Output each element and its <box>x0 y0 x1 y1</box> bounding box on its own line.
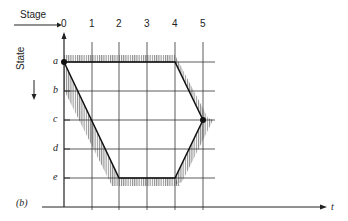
stage-5: 5 <box>200 19 206 29</box>
state-d: d <box>53 143 58 153</box>
start-point <box>61 59 67 65</box>
hatched-region <box>64 55 213 186</box>
stage-0: 0 <box>61 19 67 29</box>
state-label: State <box>16 47 26 70</box>
stage-2: 2 <box>116 19 122 29</box>
state-a: a <box>53 56 58 66</box>
state-b: b <box>53 85 58 95</box>
panel-label: (b) <box>16 198 28 208</box>
stage-1: 1 <box>89 19 95 29</box>
stage-4: 4 <box>172 19 178 29</box>
state-c: c <box>53 114 57 124</box>
time-axis-label: t <box>331 202 334 212</box>
turn-point <box>200 117 206 123</box>
state-stage-diagram: Stage State 0 1 2 3 4 5 a b c d e (b) t <box>0 0 348 221</box>
state-e: e <box>53 172 57 182</box>
stage-3: 3 <box>144 19 150 29</box>
diagram-graphic <box>0 0 348 221</box>
stage-label: Stage <box>20 10 46 20</box>
